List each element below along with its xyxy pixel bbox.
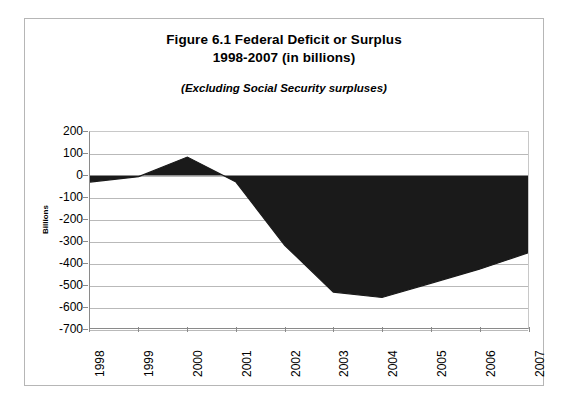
figure-frame: Figure 6.1 Federal Deficit or Surplus 19… [24, 18, 544, 386]
x-tick-label: 1999 [143, 350, 155, 377]
y-tick-mark [83, 175, 88, 176]
area-fill [90, 157, 528, 297]
area-series [90, 132, 528, 328]
x-tick-label: 2004 [387, 350, 399, 377]
plot-wrapper [89, 131, 529, 329]
x-tick-mark [89, 327, 90, 332]
y-axis-title: Billions [41, 190, 50, 250]
y-tick-label: -400 [59, 257, 83, 269]
y-tick-mark [83, 263, 88, 264]
gridline [90, 330, 528, 331]
y-tick-label: -500 [59, 279, 83, 291]
x-tick-label: 2002 [290, 350, 302, 377]
y-tick-label: -700 [59, 323, 83, 335]
x-tick-mark [382, 327, 383, 332]
chart-title-line-1: Figure 6.1 Federal Deficit or Surplus [25, 31, 543, 49]
x-tick-mark [529, 327, 530, 332]
y-tick-label: -100 [59, 191, 83, 203]
y-tick-label: -300 [59, 235, 83, 247]
y-tick-label: 0 [76, 169, 83, 181]
y-tick-mark [83, 307, 88, 308]
x-tick-label: 2007 [534, 350, 546, 377]
x-tick-mark [187, 327, 188, 332]
plot-area [89, 131, 529, 329]
x-tick-label: 2000 [192, 350, 204, 377]
y-tick-mark [83, 241, 88, 242]
x-tick-label: 2005 [436, 350, 448, 377]
x-tick-label: 2001 [241, 350, 253, 377]
y-axis-labels: 2001000-100-200-300-400-500-600-700 [25, 131, 83, 329]
x-tick-mark [138, 327, 139, 332]
x-tick-mark [431, 327, 432, 332]
y-tick-mark [83, 131, 88, 132]
x-tick-label: 2006 [485, 350, 497, 377]
y-tick-mark [83, 329, 88, 330]
y-tick-label: -600 [59, 301, 83, 313]
y-tick-mark [83, 285, 88, 286]
chart-subtitle: (Excluding Social Security surpluses) [25, 82, 543, 94]
x-tick-mark [333, 327, 334, 332]
chart-title-line-2: 1998-2007 (in billions) [25, 49, 543, 67]
y-tick-label: 200 [63, 125, 83, 137]
y-tick-mark [83, 219, 88, 220]
x-tick-mark [480, 327, 481, 332]
y-tick-label: -200 [59, 213, 83, 225]
x-axis-labels: 1998199920002001200220032004200520062007 [89, 333, 529, 385]
chart-title: Figure 6.1 Federal Deficit or Surplus 19… [25, 31, 543, 67]
y-tick-mark [83, 197, 88, 198]
x-tick-mark [236, 327, 237, 332]
x-tick-mark [285, 327, 286, 332]
y-tick-label: 100 [63, 147, 83, 159]
x-tick-label: 2003 [338, 350, 350, 377]
y-tick-mark [83, 153, 88, 154]
x-tick-label: 1998 [94, 350, 106, 377]
